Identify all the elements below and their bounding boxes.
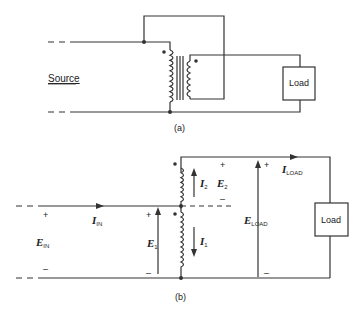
caption-a: (a)	[174, 123, 185, 133]
caption-b: (b)	[175, 292, 186, 302]
load-label-b: Load	[321, 215, 341, 225]
source-label: Source	[48, 73, 80, 84]
diagram-a-labels: Source Load (a)	[48, 73, 309, 133]
e2-plus: +	[220, 160, 225, 170]
circuit-svg: Source Load (a) Load (b) + – EIN IIN + –…	[0, 0, 362, 315]
i-in-label: IIN	[91, 214, 102, 227]
eload-label: ELOAD	[243, 214, 268, 227]
load-label-a: Load	[289, 78, 309, 88]
i1-label: I1	[199, 235, 208, 248]
e1-label: E1	[146, 237, 158, 250]
e1-plus: +	[146, 210, 151, 220]
eload-plus: +	[264, 160, 269, 170]
diagram-a-wiring	[48, 16, 315, 112]
e-in-plus: +	[43, 210, 48, 220]
autotransformer-diagram: Source Load (a) Load (b) + – EIN IIN + –…	[0, 0, 362, 315]
e2-label: E2	[216, 177, 228, 190]
diagram-b-labels: Load (b) + – EIN IIN + – E1 I1 I2 + – E2…	[35, 160, 341, 302]
iload-label: ILOAD	[281, 163, 303, 176]
e1-minus: –	[146, 268, 151, 278]
i2-label: I2	[199, 177, 208, 190]
e-in-minus: –	[43, 264, 48, 274]
e2-minus: –	[220, 194, 225, 204]
e-in-label: EIN	[35, 236, 49, 249]
eload-minus: –	[264, 268, 269, 278]
